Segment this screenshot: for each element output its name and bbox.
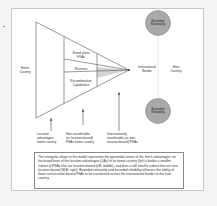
bounded-rationality-label: Bounded Rationality — [145, 20, 171, 27]
figure-caption: The triangular shape in the model repres… — [34, 152, 184, 189]
arrowhead-icon — [50, 119, 52, 121]
location-advantages-label: Location advantages home country — [37, 133, 56, 144]
section-recombination-capabilities: Recombination Capabilities — [65, 80, 97, 88]
section-stand-alone-fsas: Stand-alone FSAs — [66, 52, 96, 60]
international-border-label: International Border — [136, 66, 158, 74]
section-routines: Routines — [66, 68, 96, 72]
apex-dot — [128, 69, 130, 71]
non-transferable-fsas-label: Non-transferable (or location-bound) FSA… — [66, 133, 94, 144]
arrowhead-icon — [82, 110, 84, 112]
bounded-reliability-label: Bounded Reliability — [145, 108, 171, 115]
arrowhead-icon — [118, 93, 120, 95]
transferable-fsas-label: Internationally transferable (or non- lo… — [107, 133, 138, 144]
home-country-label: Home Country — [14, 67, 36, 75]
host-country-label: Host Country — [167, 66, 185, 74]
